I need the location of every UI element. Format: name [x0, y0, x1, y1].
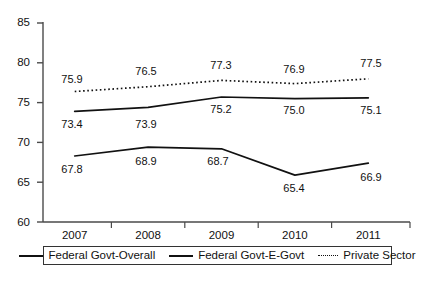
data-label-private-sector-2008: 76.5 — [126, 66, 166, 77]
data-label-private-sector-2007: 75.9 — [52, 74, 92, 85]
legend-item-federal-govt-egovt[interactable]: Federal Govt-E-Govt — [162, 250, 311, 262]
x-axis-ticks — [111, 222, 410, 228]
y-tick-label-0: 85 — [4, 17, 30, 29]
data-label-private-sector-2009: 77.3 — [201, 60, 241, 71]
x-tick-label-2008: 2008 — [118, 230, 178, 242]
data-label-federal-govt-overall-2010: 65.4 — [274, 183, 314, 194]
x-tick-label-2011: 2011 — [338, 230, 398, 242]
y-tick-label-1: 80 — [4, 57, 30, 69]
y-tick-label-5: 60 — [4, 217, 30, 229]
x-tick-label-2009: 2009 — [192, 230, 252, 242]
data-label-federal-govt-egovt-2009: 75.2 — [201, 104, 241, 115]
data-label-federal-govt-egovt-2008: 73.9 — [126, 119, 166, 130]
legend-item-private-sector[interactable]: Private Sector — [311, 250, 422, 262]
y-tick-label-3: 70 — [4, 137, 30, 149]
data-label-federal-govt-egovt-2007: 73.4 — [52, 119, 92, 130]
legend-label-federal-govt-overall: Federal Govt-Overall — [48, 250, 155, 262]
legend-item-federal-govt-overall[interactable]: Federal Govt-Overall — [12, 250, 162, 262]
data-label-federal-govt-overall-2008: 68.9 — [126, 156, 166, 167]
data-label-federal-govt-egovt-2010: 75.0 — [274, 105, 314, 116]
figure-caption — [8, 272, 418, 283]
data-label-private-sector-2011: 77.5 — [351, 58, 391, 69]
chart-legend: Federal Govt-Overall Federal Govt-E-Govt… — [43, 246, 392, 265]
legend-label-private-sector: Private Sector — [343, 250, 415, 262]
legend-swatch-solid-icon — [19, 251, 43, 260]
x-tick-label-2007: 2007 — [45, 230, 105, 242]
figure: 85 80 75 70 65 60 2007 2008 2009 2010 20… — [0, 0, 423, 285]
legend-swatch-solid-icon — [169, 251, 193, 260]
data-label-private-sector-2010: 76.9 — [274, 64, 314, 75]
data-label-federal-govt-egovt-2011: 75.1 — [351, 105, 391, 116]
data-label-federal-govt-overall-2009: 68.7 — [198, 156, 238, 167]
y-tick-label-4: 65 — [4, 177, 30, 189]
data-label-federal-govt-overall-2011: 66.9 — [351, 172, 391, 183]
legend-label-federal-govt-egovt: Federal Govt-E-Govt — [198, 250, 304, 262]
y-tick-label-2: 75 — [4, 97, 30, 109]
data-label-federal-govt-overall-2007: 67.8 — [52, 164, 92, 175]
x-tick-label-2010: 2010 — [265, 230, 325, 242]
series-line-private-sector — [75, 79, 369, 92]
chart-plot-area: 85 80 75 70 65 60 2007 2008 2009 2010 20… — [0, 0, 423, 240]
y-axis-ticks — [37, 23, 43, 222]
legend-swatch-dotted-icon — [318, 251, 338, 260]
